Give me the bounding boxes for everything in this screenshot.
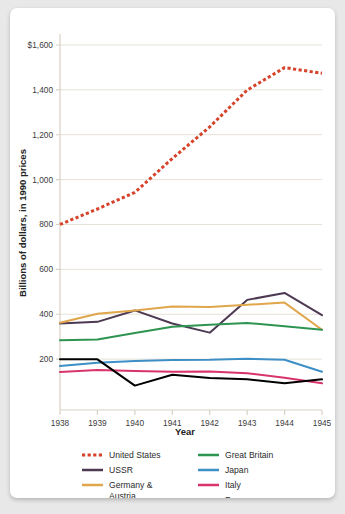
- y-tick-label: 600: [39, 264, 53, 274]
- x-tick-label: 1939: [88, 418, 107, 428]
- line-chart-figure: $1,6001,4001,2001,000800600400200 193819…: [10, 8, 335, 498]
- legend-label: United States: [109, 450, 161, 460]
- y-axis-title: Billions of dollars, in 1990 prices: [17, 149, 28, 297]
- y-tick-label: 1,200: [32, 130, 53, 140]
- data-series-group: [60, 68, 322, 386]
- legend-label: Austria: [109, 491, 136, 498]
- x-tick-label: 1943: [238, 418, 257, 428]
- y-tick-label: 1,000: [32, 175, 53, 185]
- y-tick-label: 400: [39, 309, 53, 319]
- series-line-great-britain: [60, 323, 322, 340]
- legend-label: USSR: [109, 465, 133, 475]
- chart-legend: United StatesUSSRGermany &AustriaGreat B…: [82, 450, 273, 498]
- y-tick-label: 1,400: [32, 85, 53, 95]
- series-line-united-states: [60, 68, 322, 225]
- x-tick-label: 1938: [51, 418, 70, 428]
- x-axis-title: Year: [175, 426, 195, 437]
- chart-card: $1,6001,4001,2001,000800600400200 193819…: [10, 8, 335, 498]
- x-tick-label: 1944: [275, 418, 294, 428]
- x-tick-label: 1942: [200, 418, 219, 428]
- legend-label: Great Britain: [225, 450, 273, 460]
- legend-label: Germany &: [109, 480, 153, 490]
- legend-label: France: [225, 495, 252, 498]
- legend-label: Italy: [225, 480, 241, 490]
- y-tick-label: $1,600: [28, 40, 54, 50]
- y-tick-label: 200: [39, 354, 53, 364]
- gridlines: [60, 45, 322, 359]
- y-axis-tick-labels: $1,6001,4001,2001,000800600400200: [28, 40, 54, 364]
- legend-label: Japan: [225, 465, 249, 475]
- x-tick-label: 1940: [126, 418, 145, 428]
- y-tick-label: 800: [39, 219, 53, 229]
- chart-svg: $1,6001,4001,2001,000800600400200 193819…: [10, 8, 335, 498]
- x-tick-label: 1945: [313, 418, 332, 428]
